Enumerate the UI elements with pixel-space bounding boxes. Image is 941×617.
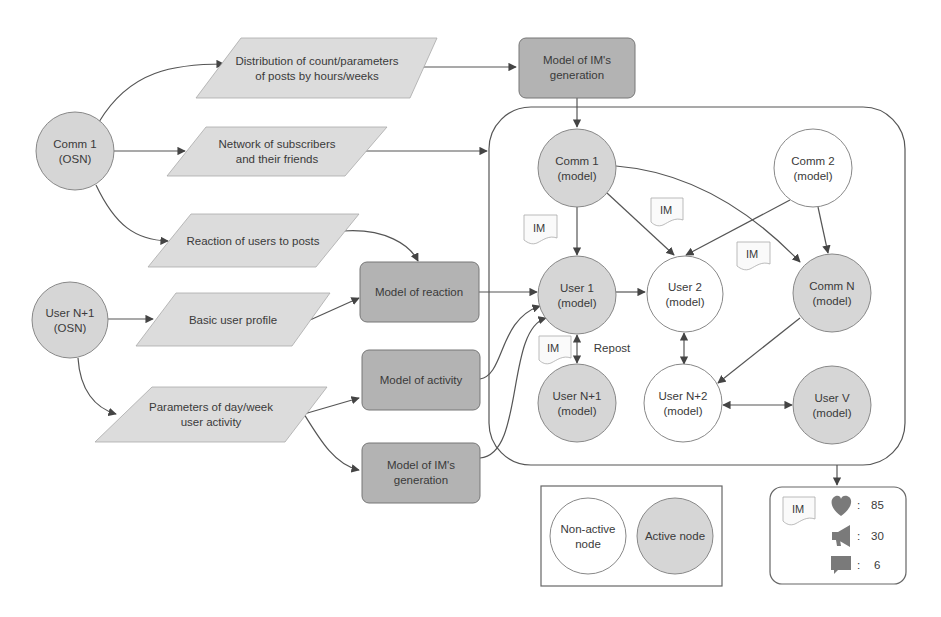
source-comm1-osn[interactable]: Comm 1 (OSN)	[36, 112, 114, 190]
data-parameters-activity[interactable]: Parameters of day/week user activity	[95, 387, 327, 442]
node-label: Comm 2	[791, 155, 834, 167]
node-label: User 2	[668, 281, 702, 293]
node-usern1-model[interactable]: User N+1 (model)	[538, 364, 616, 442]
legend-active-node: Active node	[637, 498, 713, 574]
node-label: User N+2	[659, 390, 708, 402]
model-label: Model of activity	[380, 374, 463, 386]
node-label: (model)	[813, 295, 852, 307]
node-label: (OSN)	[54, 322, 87, 334]
node-label: (model)	[813, 407, 852, 419]
model-activity[interactable]: Model of activity	[362, 350, 480, 410]
node-comm2-model[interactable]: Comm 2 (model)	[774, 129, 852, 207]
node-label: (model)	[558, 297, 597, 309]
im-document-icon: IM	[737, 242, 770, 270]
im-label: IM	[660, 204, 672, 216]
model-im-generation-bottom[interactable]: Model of IM's generation	[362, 443, 480, 503]
model-label: generation	[550, 69, 604, 81]
node-label: (model)	[558, 405, 597, 417]
data-label: Basic user profile	[189, 314, 277, 326]
data-label: user activity	[181, 416, 242, 428]
legend-label: Non-active	[561, 523, 616, 535]
data-reaction-users[interactable]: Reaction of users to posts	[148, 214, 359, 267]
data-network[interactable]: Network of subscribers and their friends	[167, 127, 387, 176]
diagram-canvas: Comm 1 (OSN) User N+1 (OSN) Distribution…	[0, 0, 941, 617]
node-label: User N+1	[46, 307, 95, 319]
stat-separator: :	[857, 559, 860, 571]
repost-label: Repost	[594, 342, 631, 354]
stat-separator: :	[857, 530, 860, 542]
likes-count: 85	[871, 499, 884, 511]
node-user1-model[interactable]: User 1 (model)	[538, 256, 616, 334]
node-label: (model)	[794, 170, 833, 182]
legend-box: Non-active node Active node	[541, 486, 722, 586]
model-label: Model of IM's	[387, 459, 455, 471]
source-usern1-osn[interactable]: User N+1 (OSN)	[32, 282, 108, 358]
node-label: (OSN)	[59, 153, 92, 165]
model-label: Model of IM's	[543, 54, 611, 66]
node-user2-model[interactable]: User 2 (model)	[647, 256, 723, 332]
legend-label: Active node	[645, 530, 705, 542]
data-label: Distribution of count/parameters	[236, 55, 399, 67]
model-label: Model of reaction	[375, 286, 463, 298]
model-label: generation	[394, 474, 448, 486]
im-label: IM	[547, 342, 559, 354]
im-label: IM	[792, 503, 804, 515]
stat-separator: :	[857, 499, 860, 511]
post-stats-box: IM : 85 : 30 : 6	[770, 487, 906, 584]
comments-count: 6	[874, 559, 880, 571]
node-label: User V	[814, 392, 849, 404]
data-label: of posts by hours/weeks	[255, 70, 379, 82]
im-label: IM	[533, 222, 545, 234]
data-basic-profile[interactable]: Basic user profile	[136, 293, 330, 346]
node-label: User N+1	[553, 390, 602, 402]
data-distribution[interactable]: Distribution of count/parameters of post…	[196, 38, 437, 98]
node-label: Comm 1	[555, 155, 598, 167]
model-reaction[interactable]: Model of reaction	[360, 262, 479, 322]
reposts-count: 30	[871, 530, 884, 542]
legend-non-active-node: Non-active node	[550, 498, 626, 574]
node-label: Comm N	[809, 280, 854, 292]
im-document-icon: IM	[539, 336, 571, 364]
data-label: Network of subscribers	[219, 138, 336, 150]
node-label: (model)	[666, 296, 705, 308]
node-label: (model)	[558, 170, 597, 182]
im-document-icon: IM	[651, 198, 683, 226]
node-comm1-model[interactable]: Comm 1 (model)	[538, 129, 616, 207]
node-label: (model)	[664, 405, 703, 417]
data-label: and their friends	[236, 153, 319, 165]
im-label: IM	[746, 248, 758, 260]
im-document-icon: IM	[524, 215, 557, 244]
node-label: Comm 1	[53, 138, 96, 150]
data-label: Parameters of day/week	[149, 401, 273, 413]
data-label: Reaction of users to posts	[187, 235, 320, 247]
node-label: User 1	[560, 282, 594, 294]
legend-label: node	[575, 538, 601, 550]
model-im-generation-top[interactable]: Model of IM's generation	[519, 38, 635, 98]
node-userV-model[interactable]: User V (model)	[793, 366, 871, 444]
node-usern2-model[interactable]: User N+2 (model)	[644, 364, 722, 442]
node-commN-model[interactable]: Comm N (model)	[793, 254, 871, 332]
